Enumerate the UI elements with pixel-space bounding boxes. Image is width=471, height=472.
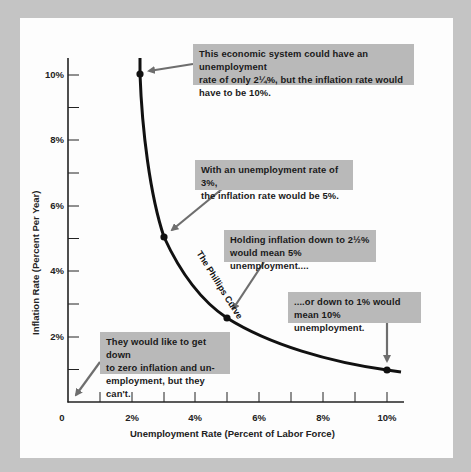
x-tick-8: 8% [303, 412, 343, 423]
x-tick-10: 10% [367, 412, 407, 423]
point-3pct-unemployment [160, 233, 167, 240]
arrow-5-icon [76, 362, 100, 395]
y-axis-ticks [68, 75, 79, 370]
y-tick-8: 8% [34, 134, 64, 145]
annotation-5-line-3: employment, but they can't. [106, 374, 224, 400]
annotation-1-line-3: have to be 10%. [199, 86, 408, 99]
annotation-1-line-2: rate of only 2¼%, but the inflation rate… [199, 73, 408, 86]
annotation-4-line-1: ....or down to 1% would mean 10% [294, 295, 415, 321]
x-tick-0: 0 [42, 412, 82, 423]
annotation-5-line-2: to zero inflation and un- [106, 361, 224, 374]
x-tick-2: 2% [112, 412, 152, 423]
annotation-3-line-1: Holding inflation down to 2½% [230, 233, 370, 246]
x-tick-6: 6% [239, 412, 279, 423]
annotation-box-1: This economic system could have an unemp… [193, 44, 414, 85]
y-axis-label: Inflation Rate (Percent Per Year) [30, 191, 41, 336]
y-tick-10: 10% [34, 69, 64, 80]
point-10pct-unemployment [383, 366, 390, 373]
annotation-5-line-1: They would like to get down [106, 335, 224, 361]
annotation-box-4: ....or down to 1% would mean 10% unemplo… [288, 292, 421, 323]
x-tick-4: 4% [175, 412, 215, 423]
annotation-2-line-2: the inflation rate would be 5%. [201, 189, 347, 202]
annotation-3-line-2: would mean 5% unemployment.... [230, 246, 370, 272]
arrow-1-icon [149, 64, 193, 71]
annotation-4-line-2: unemployment. [294, 321, 415, 334]
x-axis-label: Unemployment Rate (Percent of Labor Forc… [130, 428, 335, 439]
point-5pct-unemployment [223, 314, 230, 321]
annotation-box-5: They would like to get down to zero infl… [100, 332, 230, 374]
annotation-box-3: Holding inflation down to 2½% would mean… [224, 230, 376, 262]
annotation-1-line-1: This economic system could have an unemp… [199, 47, 408, 73]
annotation-box-2: With an unemployment rate of 3%, the inf… [195, 160, 353, 190]
annotation-2-line-1: With an unemployment rate of 3%, [201, 163, 347, 189]
point-10pct-inflation [136, 70, 143, 77]
